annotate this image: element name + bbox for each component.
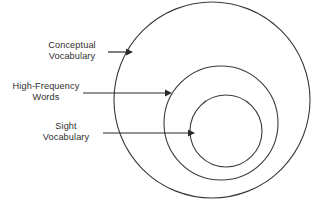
conceptual-vocabulary-label: Conceptual Vocabulary <box>36 40 108 63</box>
sight-vocabulary-circle <box>190 95 262 167</box>
conceptual-arrow <box>108 49 133 56</box>
conceptual-vocabulary-circle <box>114 2 310 198</box>
sight-arrow <box>103 130 195 137</box>
sight-vocabulary-label: Sight Vocabulary <box>28 121 104 144</box>
high-frequency-words-label: High-Frequency Words <box>8 81 84 104</box>
vocabulary-diagram: Conceptual Vocabulary High-Frequency Wor… <box>0 0 328 206</box>
high-frequency-arrow <box>83 90 172 97</box>
